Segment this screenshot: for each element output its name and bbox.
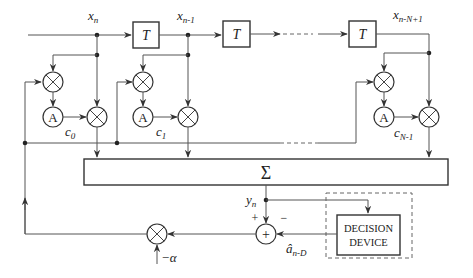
- decision-device: [337, 215, 400, 255]
- label-xn: xn: [87, 8, 99, 25]
- update-multiplier-n-1: [374, 72, 394, 92]
- tap-0: A c0: [25, 35, 107, 234]
- decision-device-line2: DEVICE: [349, 237, 388, 248]
- tap-multiplier-n-1: [419, 107, 439, 127]
- equalizer-block-diagram: T T T xn xn-1 xn-N+1 A c0: [0, 0, 473, 278]
- tap-n-1: A cN-1: [356, 51, 439, 157]
- tap-multiplier-0: [87, 107, 107, 127]
- accumulator-label-1: A: [138, 110, 148, 125]
- label-xn-n-1: xn-N+1: [392, 7, 423, 24]
- error-adder: +: [256, 224, 276, 244]
- plus-sign: +: [252, 211, 259, 225]
- label-ahat: ân-D: [286, 241, 307, 258]
- tap-multiplier-1: [178, 107, 198, 127]
- svg-text:+: +: [262, 227, 270, 242]
- step-size-multiplier: [147, 224, 167, 244]
- error-feedback-bus: [23, 141, 356, 146]
- delay-line: T T T: [28, 21, 429, 53]
- decision-device-line1: DECISION: [344, 223, 393, 234]
- accumulator-label-0: A: [48, 110, 58, 125]
- delay-label-1: T: [142, 28, 151, 43]
- delay-label-n: T: [359, 27, 368, 42]
- minus-sign: −: [281, 211, 288, 225]
- sum-symbol: Σ: [261, 163, 271, 183]
- label-alpha: −α: [161, 250, 178, 265]
- coef-c1: c1: [156, 124, 166, 141]
- label-yn: yn: [244, 192, 257, 209]
- accumulator-label-n-1: A: [379, 110, 389, 125]
- delay-label-2: T: [233, 27, 242, 42]
- label-xn-1: xn-1: [176, 8, 195, 25]
- update-multiplier-1: [133, 72, 153, 92]
- update-multiplier-0: [43, 72, 63, 92]
- coef-cn-1: cN-1: [394, 125, 413, 142]
- tap-1: A c1: [117, 35, 198, 157]
- coef-c0: c0: [65, 124, 76, 141]
